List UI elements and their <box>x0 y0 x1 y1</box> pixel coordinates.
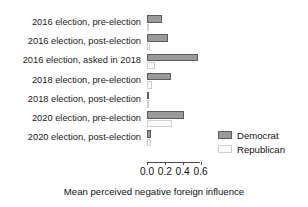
legend-label-republican: Republican <box>237 144 285 155</box>
bar-republican-3 <box>147 81 152 88</box>
bar-democrat-1 <box>147 34 168 41</box>
x-tick-0 <box>147 162 148 165</box>
bar-group-0 <box>147 14 205 33</box>
bar-republican-0 <box>147 24 149 31</box>
legend-item-republican: Republican <box>218 142 304 156</box>
x-axis-tick-labels: 0.0 0.2 0.4 0.6 <box>130 166 260 179</box>
x-tick-label-1: 0.2 <box>158 166 172 178</box>
x-tick-2 <box>183 162 184 165</box>
bar-republican-2 <box>147 62 155 69</box>
plot-area <box>147 14 205 149</box>
bar-democrat-2 <box>147 54 198 61</box>
bar-democrat-4 <box>147 92 149 99</box>
bar-group-4 <box>147 91 205 110</box>
y-axis-label-3: 2018 election, pre-election <box>0 75 141 85</box>
bar-republican-5 <box>147 120 172 127</box>
bar-group-2 <box>147 52 205 71</box>
y-axis-label-1: 2016 election, post-election <box>0 36 141 46</box>
x-tick-label-2: 0.4 <box>176 166 190 178</box>
bar-republican-1 <box>147 43 150 50</box>
bar-group-3 <box>147 72 205 91</box>
legend-item-democrat: Democrat <box>218 128 304 142</box>
y-axis-label-2: 2016 election, asked in 2018 <box>0 55 141 65</box>
bar-group-5 <box>147 110 205 129</box>
y-axis-label-5: 2020 election, pre-election <box>0 113 141 123</box>
y-axis-category-labels: 2016 election, pre-election 2016 electio… <box>0 14 144 149</box>
x-axis-title: Mean perceived negative foreign influenc… <box>0 186 308 198</box>
y-axis-label-0: 2016 election, pre-election <box>0 17 141 27</box>
y-axis-label-6: 2020 election, post-election <box>0 132 141 142</box>
x-axis-line <box>147 162 200 163</box>
bar-group-6 <box>147 129 205 148</box>
legend-label-democrat: Democrat <box>237 130 279 141</box>
bar-democrat-0 <box>147 15 162 22</box>
bar-republican-6 <box>147 139 151 146</box>
x-tick-3 <box>201 162 202 165</box>
bar-democrat-3 <box>147 73 171 80</box>
bar-group-1 <box>147 33 205 52</box>
bar-democrat-6 <box>147 130 151 137</box>
bar-democrat-5 <box>147 111 184 118</box>
x-tick-label-0: 0.0 <box>140 166 154 178</box>
bar-republican-4 <box>147 100 149 107</box>
x-tick-label-3: 0.6 <box>193 166 207 178</box>
legend-swatch-republican-icon <box>218 145 232 153</box>
legend-swatch-democrat-icon <box>218 131 232 139</box>
chart-legend: Democrat Republican <box>218 128 304 156</box>
y-axis-label-4: 2018 election, post-election <box>0 94 141 104</box>
x-tick-1 <box>165 162 166 165</box>
bar-chart: 2016 election, pre-election 2016 electio… <box>0 0 308 207</box>
